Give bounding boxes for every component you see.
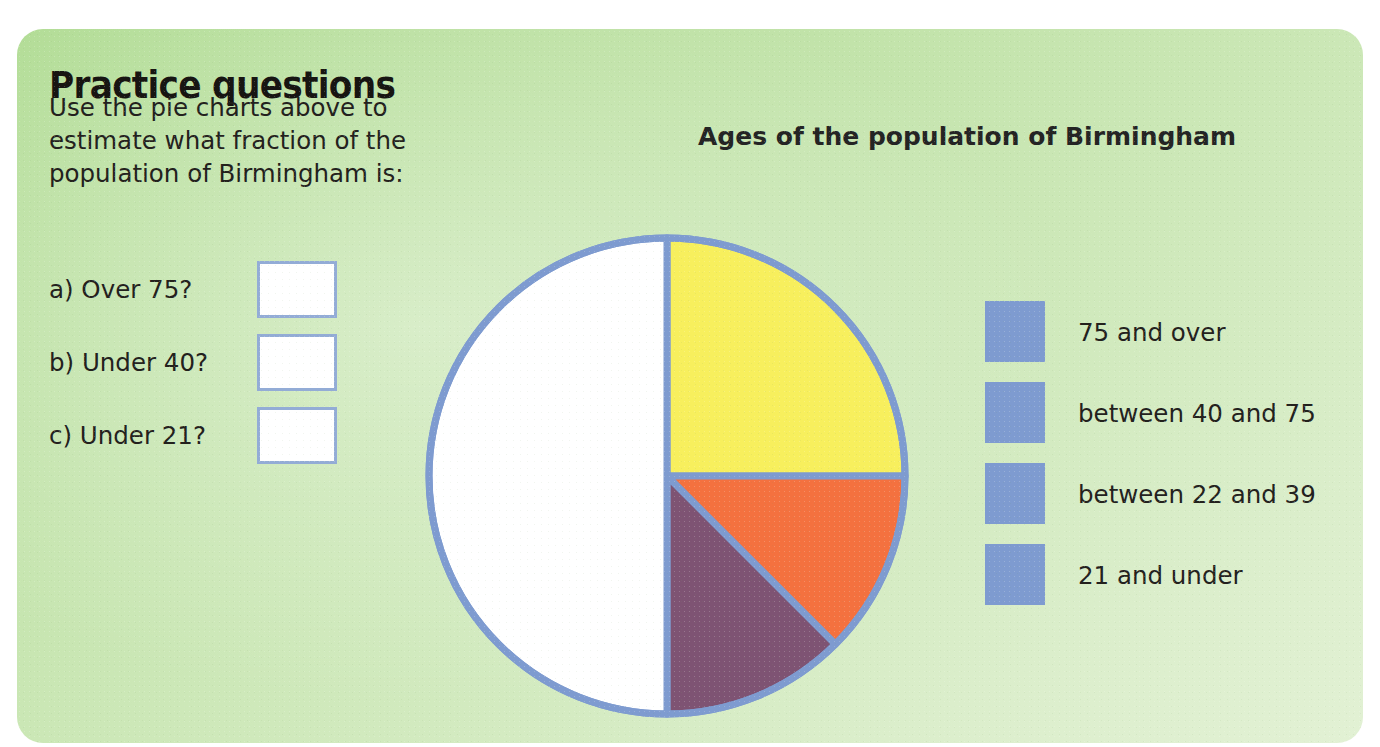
- instructions-line-2: estimate what fraction of the: [49, 124, 349, 157]
- legend-item: 21 and under: [985, 544, 1345, 625]
- legend-label-4: 21 and under: [1078, 561, 1243, 590]
- question-label-c: c) Under 21?: [49, 421, 206, 450]
- worksheet-page: Practice questions Use the pie charts ab…: [0, 0, 1380, 747]
- legend-item: between 22 and 39: [985, 463, 1345, 544]
- legend-label-3: between 22 and 39: [1078, 480, 1316, 509]
- instructions-text: Use the pie charts above to estimate wha…: [49, 91, 349, 190]
- answer-box-a[interactable]: [257, 261, 337, 318]
- chart-legend: 75 and over between 40 and 75 between 22…: [985, 301, 1345, 625]
- pie-slice: [429, 238, 667, 714]
- practice-questions-panel: Practice questions Use the pie charts ab…: [17, 29, 1363, 743]
- instructions-line-1: Use the pie charts above to: [49, 91, 349, 124]
- pie-chart: [425, 234, 909, 718]
- legend-swatch-frame-2: [985, 382, 1045, 443]
- pie-chart-svg: [425, 234, 909, 718]
- question-row: a) Over 75?: [47, 257, 357, 330]
- questions-list: a) Over 75? b) Under 40? c) Under 21?: [47, 257, 357, 476]
- chart-title: Ages of the population of Birmingham: [647, 122, 1287, 151]
- instructions-line-3: population of Birmingham is:: [49, 157, 349, 190]
- question-row: b) Under 40?: [47, 330, 357, 403]
- answer-box-b[interactable]: [257, 334, 337, 391]
- question-label-a: a) Over 75?: [49, 275, 192, 304]
- legend-swatch-frame-4: [985, 544, 1045, 605]
- legend-swatch-frame-3: [985, 463, 1045, 524]
- question-row: c) Under 21?: [47, 403, 357, 476]
- answer-box-c[interactable]: [257, 407, 337, 464]
- question-label-b: b) Under 40?: [49, 348, 208, 377]
- legend-item: 75 and over: [985, 301, 1345, 382]
- legend-label-2: between 40 and 75: [1078, 399, 1316, 428]
- legend-label-1: 75 and over: [1078, 318, 1225, 347]
- legend-swatch-frame-1: [985, 301, 1045, 362]
- legend-item: between 40 and 75: [985, 382, 1345, 463]
